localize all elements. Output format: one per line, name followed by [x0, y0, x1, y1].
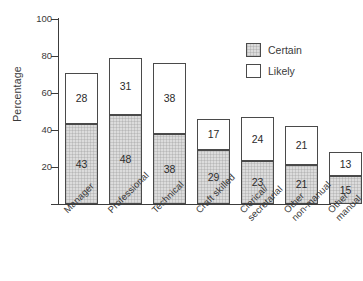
legend-label-certain: Certain	[268, 45, 302, 56]
legend: Certain Likely	[246, 41, 302, 83]
legend-item-likely: Likely	[246, 62, 302, 80]
bar-value-likely: 21	[296, 140, 308, 151]
y-tick-label-80: 80	[22, 51, 52, 61]
bar-value-certain: 48	[120, 154, 132, 165]
certain-swatch-icon	[246, 43, 261, 57]
bar-value-likely: 38	[164, 93, 176, 104]
x-axis-labels: ManagerProfessionalTechnicalCraft skille…	[0, 206, 350, 281]
bar-segment-likely[interactable]: 13	[329, 152, 362, 176]
legend-label-likely: Likely	[268, 66, 295, 77]
bar-value-likely: 17	[208, 129, 220, 140]
bar-segment-likely[interactable]: 21	[285, 126, 318, 165]
legend-item-certain: Certain	[246, 41, 302, 59]
bar-segment-likely[interactable]: 28	[65, 73, 98, 125]
likely-swatch-icon	[246, 64, 261, 78]
bar-value-certain: 38	[164, 164, 176, 175]
bar-value-likely: 31	[120, 81, 132, 92]
y-tick-label-100: 100	[22, 14, 52, 24]
bar-value-likely: 24	[252, 134, 264, 145]
y-tick-label-60: 60	[22, 88, 52, 98]
bar-value-likely: 28	[76, 93, 88, 104]
bar-segment-likely[interactable]: 31	[109, 58, 142, 115]
y-tick-label-40: 40	[22, 125, 52, 135]
bar-segment-likely[interactable]: 24	[241, 117, 274, 161]
bar-value-likely: 13	[340, 159, 352, 170]
y-axis-title: Percentage	[11, 39, 23, 149]
bar-segment-likely[interactable]: 38	[153, 63, 186, 133]
bar-segment-likely[interactable]: 17	[197, 119, 230, 150]
bar-value-certain: 29	[208, 172, 220, 183]
y-tick-label-20: 20	[22, 162, 52, 172]
bar-value-certain: 43	[76, 159, 88, 170]
clipped-title-strip	[0, 0, 350, 5]
